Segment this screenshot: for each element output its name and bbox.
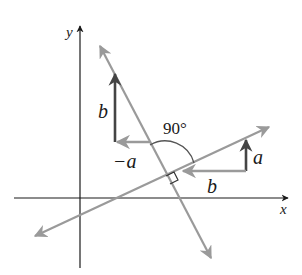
- label-b-vertical: b: [98, 100, 108, 122]
- y-axis-label: y: [64, 24, 73, 40]
- perpendicular-lines-diagram: x y 90° b −a a b: [0, 0, 302, 275]
- angle-label: 90°: [163, 119, 187, 138]
- x-axis-label: x: [279, 201, 287, 217]
- label-neg-a: −a: [113, 150, 137, 172]
- label-a-vertical: a: [253, 146, 263, 168]
- label-b-horizontal: b: [207, 175, 217, 197]
